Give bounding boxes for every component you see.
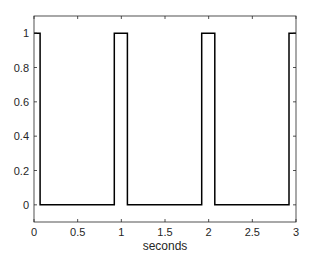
y-tick-label: 1 bbox=[23, 27, 29, 39]
x-tick-label: 0 bbox=[31, 226, 37, 238]
x-tick-label: 1 bbox=[118, 226, 124, 238]
y-tick-label: 0.6 bbox=[14, 96, 29, 108]
x-tick-label: 2.5 bbox=[245, 226, 260, 238]
pulse-chart: 00.511.522.53 00.20.40.60.81 seconds bbox=[0, 0, 315, 260]
x-tick-label: 3 bbox=[293, 226, 299, 238]
y-tick-label: 0.8 bbox=[14, 62, 29, 74]
x-tick-label: 0.5 bbox=[70, 226, 85, 238]
x-tick-label: 1.5 bbox=[157, 226, 172, 238]
x-axis-label: seconds bbox=[143, 239, 188, 253]
plot-area bbox=[34, 16, 296, 222]
x-tick-label: 2 bbox=[206, 226, 212, 238]
y-tick-label: 0.4 bbox=[14, 130, 29, 142]
y-tick-label: 0 bbox=[23, 199, 29, 211]
y-tick-label: 0.2 bbox=[14, 165, 29, 177]
